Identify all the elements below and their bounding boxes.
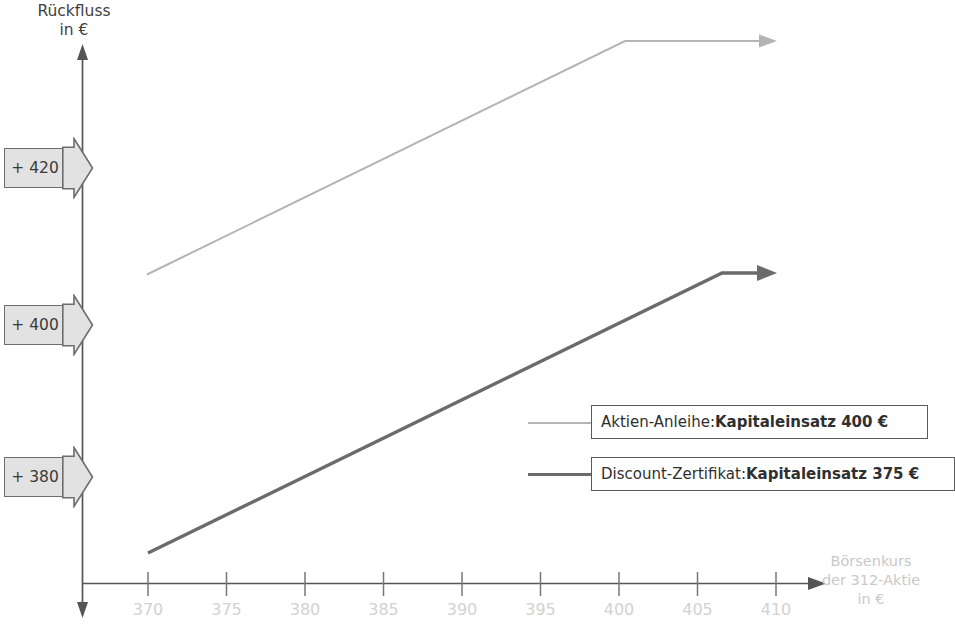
- callout-380-label: + 380: [4, 457, 66, 497]
- callout-420: + 420: [4, 137, 90, 199]
- legend-item-discount-zertifikat: Discount-Zertifikat: Kapitaleinsatz 375 …: [528, 457, 928, 491]
- series-line-aktien-anleihe: [147, 41, 762, 275]
- callout-380: + 380: [4, 446, 90, 508]
- callout-400: + 400: [4, 294, 90, 356]
- legend-item-aktien-anleihe: Aktien-Anleihe: Kapitaleinsatz 400 €: [528, 405, 928, 439]
- legend-label-discount-zertifikat: Discount-Zertifikat: Kapitaleinsatz 375 …: [591, 457, 955, 491]
- legend-label-aktien-anleihe: Aktien-Anleihe: Kapitaleinsatz 400 €: [591, 405, 928, 439]
- legend-bold-aktien-anleihe: Kapitaleinsatz 400 €: [715, 413, 888, 431]
- legend-prefix-discount-zertifikat: Discount-Zertifikat:: [601, 465, 746, 483]
- series-arrow-aktien-anleihe: [759, 35, 777, 48]
- legend-swatch-aktien-anleihe: [528, 422, 591, 424]
- legend-bold-discount-zertifikat: Kapitaleinsatz 375 €: [746, 465, 919, 483]
- callout-420-label: + 420: [4, 148, 66, 188]
- legend-swatch-discount-zertifikat: [528, 473, 591, 476]
- legend-prefix-aktien-anleihe: Aktien-Anleihe:: [601, 413, 715, 431]
- series-arrow-discount-zertifikat: [757, 265, 777, 281]
- callout-400-label: + 400: [4, 305, 66, 345]
